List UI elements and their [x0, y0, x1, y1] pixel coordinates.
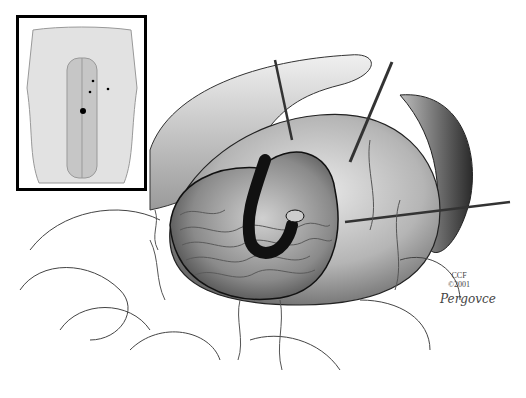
port-mark — [107, 88, 110, 91]
abdomen-inset — [16, 15, 147, 191]
torso-diagram — [19, 18, 144, 188]
artist-signature: Pergovce — [440, 292, 496, 306]
credit-year: ©2001 — [448, 280, 470, 289]
port-mark — [92, 80, 95, 83]
copyright-credit: CCF ©2001 — [448, 271, 470, 289]
credit-org: CCF — [448, 271, 470, 280]
port-mark — [89, 91, 92, 94]
port-mark-umbilical — [80, 108, 86, 114]
